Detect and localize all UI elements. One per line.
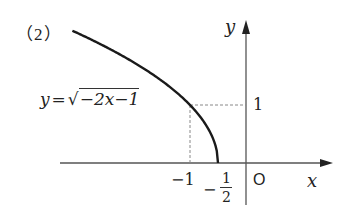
radical-icon: √ bbox=[68, 89, 79, 109]
tick-label-y-1: 1 bbox=[253, 97, 263, 113]
minus-sign: − bbox=[203, 182, 216, 198]
fraction-bar bbox=[220, 187, 232, 188]
y-axis-arrow-icon bbox=[242, 20, 250, 34]
tick-label-x-minus-1: −1 bbox=[171, 172, 195, 188]
equation-label: y=√−2x−1 bbox=[40, 91, 139, 108]
x-axis-arrow-icon bbox=[320, 159, 333, 167]
fraction-denominator: 2 bbox=[222, 190, 231, 204]
equation-equals: = bbox=[52, 89, 66, 109]
equation-lhs: y bbox=[40, 89, 50, 109]
tick-label-x-minus-half: − 1 2 bbox=[203, 171, 243, 211]
x-axis-label: x bbox=[307, 172, 317, 190]
problem-number: （2） bbox=[16, 26, 62, 43]
y-axis-label: y bbox=[225, 18, 235, 36]
origin-label: O bbox=[253, 172, 265, 188]
equation-radicand: −2x−1 bbox=[79, 88, 140, 109]
fraction-numerator: 1 bbox=[222, 171, 231, 185]
